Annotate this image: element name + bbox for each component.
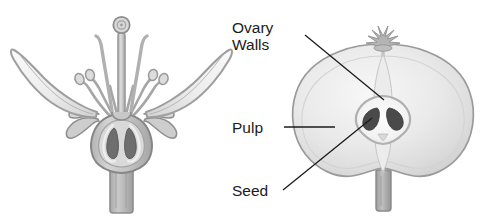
stigma-center: [120, 24, 123, 27]
label-pulp: Pulp: [232, 119, 263, 136]
label-ovary-walls-line1: Ovary: [232, 19, 274, 36]
fruit-stem: [376, 170, 391, 211]
botany-figure: Ovary Walls Pulp Seed: [0, 0, 482, 218]
figure-canvas: Ovary Walls Pulp Seed: [0, 0, 482, 218]
ovary-cavity: [99, 120, 145, 167]
calyx-base: [374, 45, 392, 51]
label-seed: Seed: [232, 182, 268, 199]
receptacle: [112, 112, 131, 120]
style: [118, 32, 125, 120]
label-ovary-walls-line2: Walls: [232, 36, 270, 53]
